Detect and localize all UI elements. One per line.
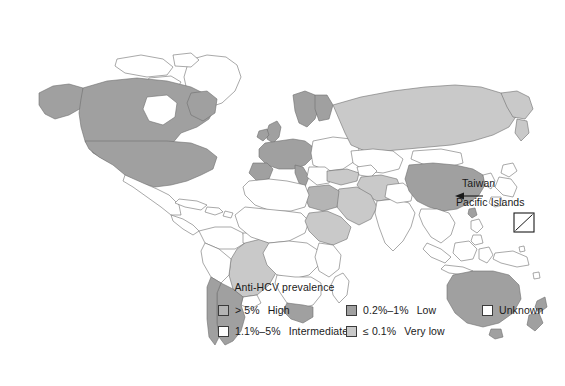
legend-title: Anti-HCV prevalence [21,281,548,293]
legend-range-very-low: ≤ 0.1% [363,325,396,337]
region-pacific-island-dot-2 [519,246,525,252]
legend-label-unknown: Unknown [499,304,543,316]
legend-range-intermediate: 1.1%–5% [235,325,281,337]
map-legend: Anti-HCV prevalence > 5% High 0.2%–1% Lo… [21,281,548,358]
legend-swatch-low [346,305,357,316]
annotation-taiwan: Taiwan [462,177,495,189]
region-egypt [305,185,339,211]
legend-swatch-high [218,305,229,316]
figure-root: .c { stroke: #6e6e6e; stroke-width: 0.6;… [0,0,565,386]
legend-entry-intermediate: 1.1%–5% Intermediate [218,322,348,340]
legend-swatch-very-low [346,326,357,337]
legend-range-low: 0.2%–1% [363,304,409,316]
legend-row-1: > 5% High 0.2%–1% Low Unknown [21,301,548,319]
legend-entry-very-low: ≤ 0.1% Very low [346,322,445,340]
legend-swatch-unknown [482,305,493,316]
legend-range-high: > 5% [235,304,260,316]
region-pacific-island-dot-1 [533,272,540,279]
pacific-islands-inset-box [514,213,534,232]
legend-row-2: 1.1%–5% Intermediate ≤ 0.1% Very low [21,322,548,340]
legend-entry-unknown: Unknown [482,301,543,319]
annotation-pacific-islands: Pacific Islands [456,196,525,208]
legend-label-high: High [268,304,290,316]
legend-entry-high: > 5% High [218,301,290,319]
legend-label-intermediate: Intermediate [289,325,349,337]
legend-label-low: Low [417,304,437,316]
legend-swatch-intermediate [218,326,229,337]
legend-label-very-low: Very low [404,325,444,337]
legend-entry-low: 0.2%–1% Low [346,301,436,319]
